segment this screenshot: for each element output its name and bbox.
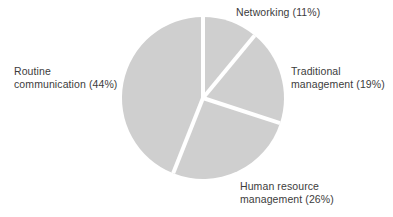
label-traditional-line1: Traditional — [291, 65, 385, 78]
label-hr-line2: management (26%) — [240, 193, 334, 206]
label-human-resource-management: Human resource management (26%) — [240, 180, 334, 206]
label-routine-communication: Routine communication (44%) — [14, 65, 117, 91]
pie-slices — [122, 17, 284, 179]
label-traditional-line2: management (19%) — [291, 78, 385, 91]
label-routine-line2: communication (44%) — [14, 78, 117, 91]
label-traditional-management: Traditional management (19%) — [291, 65, 385, 91]
label-hr-line1: Human resource — [240, 180, 334, 193]
pie-chart — [0, 0, 393, 217]
label-networking: Networking (11%) — [236, 6, 320, 19]
label-routine-line1: Routine — [14, 65, 117, 78]
label-networking-text: Networking (11%) — [236, 6, 320, 19]
